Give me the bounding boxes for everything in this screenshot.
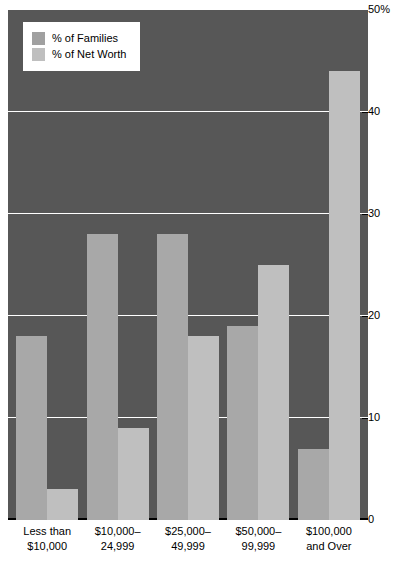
x-tick-label-2: $10,000– 24,999 — [82, 524, 152, 554]
legend-item-networth: % of Net Worth — [32, 48, 126, 61]
bar-group-1 — [12, 10, 82, 520]
bar-families-5 — [298, 449, 329, 520]
networth-swatch-icon — [32, 48, 45, 61]
y-tick-mark-20 — [362, 316, 368, 317]
bar-networth-3 — [188, 336, 219, 520]
x-tick-label-1: Less than $10,000 — [12, 524, 82, 554]
legend-label-families: % of Families — [52, 33, 118, 44]
y-tick-label-0: 0 — [368, 514, 374, 525]
bars-layer — [8, 10, 368, 520]
bar-families-2 — [87, 234, 118, 520]
y-tick-label-40: 40 — [368, 106, 380, 117]
bar-group-2 — [82, 10, 152, 520]
bar-networth-1 — [47, 489, 78, 520]
bar-families-4 — [227, 326, 258, 520]
y-tick-mark-10 — [362, 418, 368, 419]
bar-group-5 — [294, 10, 364, 520]
y-tick-label-50: 50% — [368, 4, 390, 15]
y-tick-label-30: 30 — [368, 208, 380, 219]
legend-label-networth: % of Net Worth — [52, 49, 126, 60]
x-tick-label-3: $25,000– 49,999 — [153, 524, 223, 554]
chart-legend: % of Families % of Net Worth — [23, 22, 140, 71]
y-axis: 01020304050% — [368, 0, 408, 568]
x-tick-label-4: $50,000– 99,999 — [223, 524, 293, 554]
x-tick-label-5: $100,000 and Over — [294, 524, 364, 554]
bar-networth-2 — [118, 428, 149, 520]
y-tick-mark-30 — [362, 214, 368, 215]
legend-item-families: % of Families — [32, 32, 126, 45]
x-axis: Less than $10,000$10,000– 24,999$25,000–… — [8, 524, 368, 554]
bar-chart: 01020304050% Less than $10,000$10,000– 2… — [0, 0, 408, 568]
bar-group-3 — [153, 10, 223, 520]
y-tick-label-20: 20 — [368, 310, 380, 321]
plot-area — [8, 10, 368, 520]
y-tick-label-10: 10 — [368, 412, 380, 423]
bar-networth-4 — [258, 265, 289, 520]
bar-families-3 — [157, 234, 188, 520]
bar-networth-5 — [329, 71, 360, 520]
y-tick-mark-40 — [362, 112, 368, 113]
bar-families-1 — [16, 336, 47, 520]
families-swatch-icon — [32, 32, 45, 45]
bar-group-4 — [223, 10, 293, 520]
